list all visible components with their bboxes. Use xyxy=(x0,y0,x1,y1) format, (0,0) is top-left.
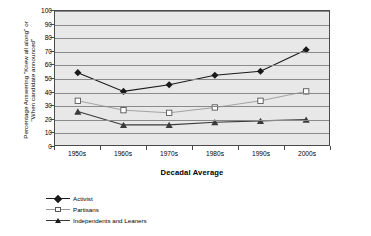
data-point-1990s xyxy=(258,98,263,103)
chart-legend: Activist Partisans Independents and Lean… xyxy=(46,194,246,225)
y-tickmark-40 xyxy=(50,92,54,93)
gridline-100 xyxy=(55,11,329,12)
series-activist xyxy=(74,46,309,95)
x-tickmark-4 xyxy=(238,146,239,150)
x-tickmark-1 xyxy=(100,146,101,150)
x-axis-tick-1980s: 1980s xyxy=(206,150,224,158)
legend-marker-independents-and-leaners xyxy=(46,216,70,225)
legend-label-independents-and-leaners: Independents and Leaners xyxy=(70,217,147,225)
x-axis-tick-1960s: 1960s xyxy=(114,150,132,158)
legend-label-partisans: Partisans xyxy=(70,206,99,214)
gridline-30 xyxy=(55,106,329,107)
data-point-1970s xyxy=(166,110,171,115)
gridline-50 xyxy=(55,79,329,80)
open-square-icon xyxy=(55,207,61,213)
filled-diamond-icon xyxy=(54,194,62,202)
legend-item-independents-and-leaners: Independents and Leaners xyxy=(46,216,246,225)
y-axis-title-line1: Percentage Answering "Knew all along" or xyxy=(22,21,29,139)
x-tickmark-5 xyxy=(284,146,285,150)
y-tickmark-50 xyxy=(50,78,54,79)
x-axis-tick-1970s: 1970s xyxy=(160,150,178,158)
x-axis-tick-1990s: 1990s xyxy=(252,150,270,158)
y-tickmark-90 xyxy=(50,24,54,25)
y-tickmark-30 xyxy=(50,105,54,106)
plot-series-layer xyxy=(55,11,329,145)
data-point-1970s xyxy=(166,81,173,88)
series-line xyxy=(78,112,306,125)
data-point-1950s xyxy=(74,69,81,76)
x-axis-tick-labels: 1950s1960s1970s1980s1990s2000s xyxy=(54,150,330,162)
chart-container: Percentage Answering "Knew all along" or… xyxy=(0,0,371,236)
filled-triangle-icon xyxy=(55,218,61,223)
x-tickmark-6 xyxy=(330,146,331,150)
legend-marker-partisans xyxy=(46,205,70,214)
data-point-1990s xyxy=(257,68,264,75)
y-tickmark-10 xyxy=(50,132,54,133)
data-point-1980s xyxy=(211,72,218,79)
series-line xyxy=(78,91,306,112)
data-point-1960s xyxy=(121,107,126,112)
y-tickmark-100 xyxy=(50,10,54,11)
gridline-60 xyxy=(55,65,329,66)
x-tickmark-3 xyxy=(192,146,193,150)
legend-marker-activist xyxy=(46,194,70,203)
x-axis-tick-1950s: 1950s xyxy=(68,150,86,158)
y-axis-tick-labels: 0102030405060708090100 xyxy=(30,10,52,146)
legend-label-activist: Activist xyxy=(70,195,93,203)
gridline-20 xyxy=(55,120,329,121)
data-point-1950s xyxy=(74,108,81,114)
data-point-1950s xyxy=(75,98,80,103)
legend-item-activist: Activist xyxy=(46,194,246,203)
y-tickmark-20 xyxy=(50,119,54,120)
legend-item-partisans: Partisans xyxy=(46,205,246,214)
x-tickmark-2 xyxy=(146,146,147,150)
plot-area xyxy=(54,10,330,146)
y-tickmark-70 xyxy=(50,51,54,52)
gridline-80 xyxy=(55,38,329,39)
y-tickmark-80 xyxy=(50,37,54,38)
gridline-40 xyxy=(55,93,329,94)
y-tickmark-60 xyxy=(50,64,54,65)
gridline-70 xyxy=(55,52,329,53)
gridline-90 xyxy=(55,25,329,26)
series-independents-and-leaners xyxy=(74,108,309,128)
x-axis-tick-2000s: 2000s xyxy=(298,150,316,158)
data-point-1960s xyxy=(120,88,127,95)
x-tickmark-0 xyxy=(54,146,55,150)
x-axis-title: Decadal Average xyxy=(54,168,330,177)
series-line xyxy=(78,50,306,92)
gridline-10 xyxy=(55,133,329,134)
